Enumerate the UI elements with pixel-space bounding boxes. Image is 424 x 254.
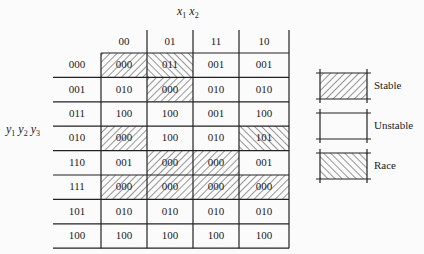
state-cell-stable: 000: [147, 157, 193, 168]
state-cell-stable: 000: [147, 84, 193, 95]
state-cell-unstable: 100: [193, 230, 239, 241]
row-label: 111: [55, 181, 99, 192]
row-variables-label: y1 y2 y3: [6, 122, 40, 138]
state-cell-stable: 000: [147, 181, 193, 192]
state-cell-stable: 000: [101, 181, 147, 192]
state-cell-unstable: 100: [147, 108, 193, 119]
state-cell-unstable: 001: [239, 157, 289, 168]
state-cell-stable: 000: [193, 181, 239, 192]
state-cell-stable: 000: [101, 59, 147, 70]
row-label: 011: [55, 108, 99, 119]
state-cell-stable: 000: [193, 157, 239, 168]
state-cell-unstable: 010: [147, 206, 193, 217]
state-cell-unstable: 001: [101, 157, 147, 168]
state-cell-unstable: 001: [193, 108, 239, 119]
column-header: 00: [101, 36, 147, 47]
row-label: 100: [55, 230, 99, 241]
state-cell-unstable: 100: [147, 230, 193, 241]
legend-label-stable: Stable: [374, 79, 402, 91]
row-label: 000: [55, 59, 99, 70]
column-header: 11: [193, 36, 239, 47]
state-cell-unstable: 010: [193, 132, 239, 143]
state-cell-unstable: 100: [101, 108, 147, 119]
state-cell-unstable: 001: [193, 59, 239, 70]
state-cell-stable: 000: [239, 181, 289, 192]
row-label: 010: [55, 132, 99, 143]
state-cell-unstable: 010: [101, 84, 147, 95]
state-cell-unstable: 100: [101, 230, 147, 241]
state-cell-unstable: 100: [147, 132, 193, 143]
row-label: 001: [55, 84, 99, 95]
state-cell-unstable: 001: [239, 59, 289, 70]
state-cell-unstable: 010: [239, 84, 289, 95]
legend-label-unstable: Unstable: [374, 119, 413, 131]
state-cell-race: 101: [239, 132, 289, 143]
state-cell-unstable: 100: [239, 108, 289, 119]
state-cell-unstable: 100: [239, 230, 289, 241]
row-label: 101: [55, 206, 99, 217]
legend-label-race: Race: [374, 159, 396, 171]
state-cell-unstable: 010: [193, 84, 239, 95]
row-label: 110: [55, 157, 99, 168]
state-cell-unstable: 010: [193, 206, 239, 217]
state-cell-unstable: 010: [101, 206, 147, 217]
state-cell-race: 011: [147, 59, 193, 70]
state-cell-unstable: 010: [239, 206, 289, 217]
column-variables-label: x1 x2: [177, 4, 199, 20]
state-cell-stable: 000: [101, 132, 147, 143]
column-header: 10: [239, 36, 289, 47]
column-header: 01: [147, 36, 193, 47]
